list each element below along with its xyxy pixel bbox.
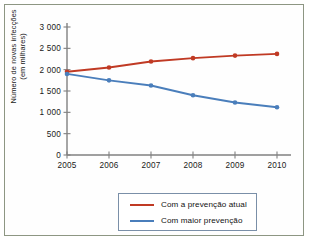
legend-swatch-greater-prevention [130, 220, 154, 222]
legend-label-greater-prevention: Com maior prevenção [161, 216, 243, 225]
x-tick-label: 2010 [257, 161, 297, 170]
legend-item-greater-prevention: Com maior prevenção [119, 214, 258, 227]
legend-swatch-current-prevention [130, 204, 154, 206]
chart-legend: Com a prevenção atual Com maior prevençã… [118, 193, 257, 231]
x-tick-label: 2009 [215, 161, 255, 170]
x-tick-label: 2005 [47, 161, 87, 170]
x-tick-label: 2008 [173, 161, 213, 170]
x-tick-label: 2007 [131, 161, 171, 170]
x-tick-label: 2006 [89, 161, 129, 170]
legend-item-current-prevention: Com a prevenção atual [119, 198, 258, 211]
chart-figure-frame: Número de novas infecções (em milhares) … [4, 4, 304, 236]
legend-label-current-prevention: Com a prevenção atual [161, 200, 247, 209]
